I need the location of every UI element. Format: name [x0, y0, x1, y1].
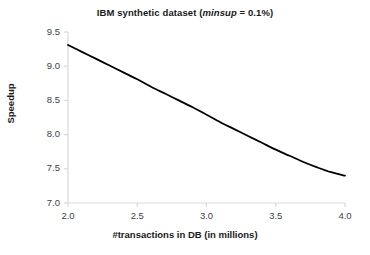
x-tick-label: 4.0 — [325, 210, 365, 221]
y-tick-label: 9.0 — [26, 60, 60, 71]
y-tick-label: 7.5 — [26, 162, 60, 173]
chart-figure: IBM synthetic dataset (minsup = 0.1%) Sp… — [0, 0, 370, 255]
x-tick-label: 3.0 — [187, 210, 227, 221]
data-series-group — [68, 45, 345, 176]
y-tick-label: 8.0 — [26, 128, 60, 139]
y-tick-label: 8.5 — [26, 94, 60, 105]
x-tick-label: 2.0 — [48, 210, 88, 221]
y-tick-label: 7.0 — [26, 197, 60, 208]
x-tick-label: 3.5 — [256, 210, 296, 221]
x-tick-label: 2.5 — [117, 210, 157, 221]
y-tick-label: 9.5 — [26, 26, 60, 37]
data-line-speedup — [68, 45, 345, 176]
x-axis-ticks — [68, 203, 345, 207]
axes-group — [64, 32, 345, 207]
